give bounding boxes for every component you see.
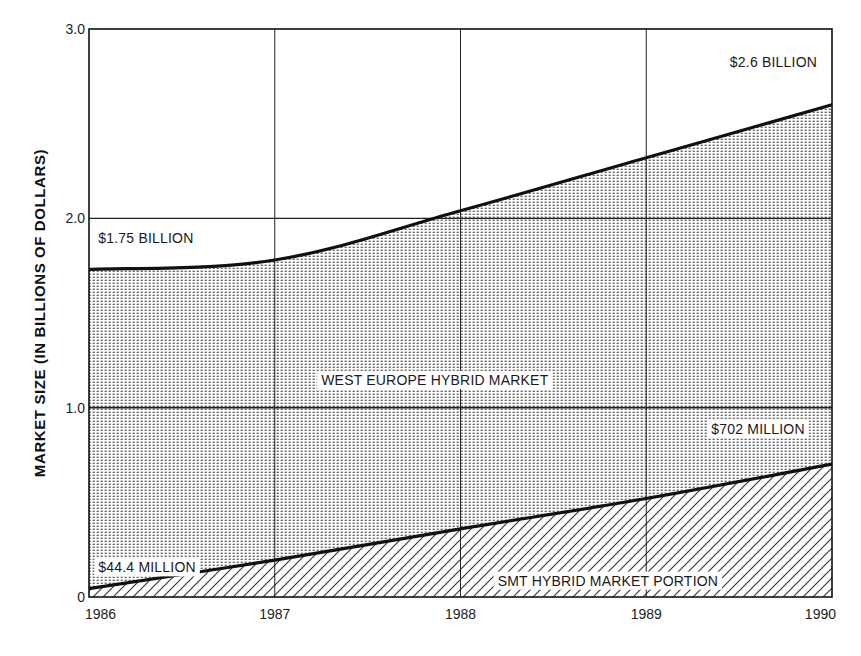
annotation-region-smt: SMT HYBRID MARKET PORTION xyxy=(494,572,722,590)
annotation-text: SMT HYBRID MARKET PORTION xyxy=(498,573,718,589)
market-size-area-chart: $1.75 BILLION$2.6 BILLION$44.4 MILLION$7… xyxy=(0,0,861,656)
y-tick-label: 3.0 xyxy=(66,21,86,37)
x-tick-label: 1987 xyxy=(259,606,290,622)
y-tick-label: 0 xyxy=(77,589,85,605)
annotation-end-total: $2.6 BILLION xyxy=(726,53,821,71)
y-tick-label: 2.0 xyxy=(66,210,86,226)
x-tick-label: 1989 xyxy=(631,606,662,622)
x-tick-label: 1986 xyxy=(85,606,116,622)
annotation-region-total: WEST EUROPE HYBRID MARKET xyxy=(317,371,552,389)
chart-canvas: $1.75 BILLION$2.6 BILLION$44.4 MILLION$7… xyxy=(0,0,861,656)
y-axis-label: MARKET SIZE (IN BILLIONS OF DOLLARS) xyxy=(31,149,48,477)
y-axis-ticks: 01.02.03.0 xyxy=(66,21,86,605)
annotation-end-smt: $702 MILLION xyxy=(707,420,808,438)
annotation-text: $2.6 BILLION xyxy=(730,54,817,70)
annotation-text: $1.75 BILLION xyxy=(98,230,193,246)
x-axis-ticks: 19861987198819891990 xyxy=(85,606,836,622)
annotation-text: $44.4 MILLION xyxy=(98,559,196,575)
annotation-start-total: $1.75 BILLION xyxy=(94,229,197,247)
annotation-text: WEST EUROPE HYBRID MARKET xyxy=(321,372,548,388)
y-tick-label: 1.0 xyxy=(66,400,86,416)
annotation-text: $702 MILLION xyxy=(711,421,804,437)
annotation-start-smt: $44.4 MILLION xyxy=(94,558,200,576)
x-tick-label: 1988 xyxy=(445,606,476,622)
x-tick-label: 1990 xyxy=(805,606,836,622)
